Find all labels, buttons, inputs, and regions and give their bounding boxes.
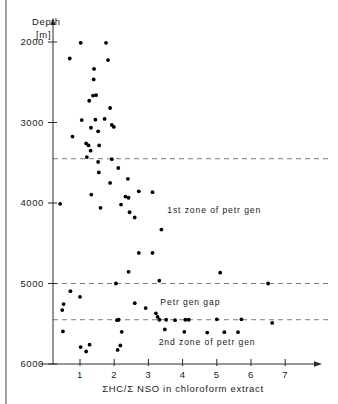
data-point xyxy=(151,251,155,255)
data-point xyxy=(126,177,130,181)
data-point xyxy=(187,318,191,322)
data-point xyxy=(154,311,158,315)
y-axis-title-line1: Depth xyxy=(32,16,61,27)
data-point xyxy=(116,166,120,170)
data-point xyxy=(87,99,91,103)
data-point xyxy=(137,251,141,255)
data-point xyxy=(266,282,270,286)
reference-lines-group xyxy=(53,159,332,320)
data-point xyxy=(270,321,274,325)
data-point xyxy=(160,228,164,232)
data-point xyxy=(103,117,107,121)
x-tick-label: 2 xyxy=(111,369,117,380)
plot-canvas: 20003000400050006000 1234567 1st zone of… xyxy=(0,0,338,404)
data-point xyxy=(108,106,112,110)
petr-gen-gap-label: Petr gen gap xyxy=(160,297,220,307)
data-point xyxy=(93,118,97,122)
data-point xyxy=(106,58,110,62)
data-point xyxy=(182,330,186,334)
data-point xyxy=(80,118,84,122)
data-point xyxy=(60,308,64,312)
data-point xyxy=(118,344,122,348)
data-point xyxy=(222,330,226,334)
y-axis-title-line2: [m] xyxy=(36,29,51,40)
data-point xyxy=(119,203,123,207)
second-zone-label: 2nd zone of petr gen xyxy=(159,337,256,347)
data-point xyxy=(61,330,65,334)
data-point xyxy=(183,318,187,322)
x-axis-arrowhead xyxy=(314,361,322,367)
data-point xyxy=(84,350,88,354)
first-zone-label: 1st zone of petr gen xyxy=(167,205,261,215)
data-point xyxy=(133,301,137,305)
data-point xyxy=(114,282,118,286)
data-point xyxy=(163,327,167,331)
data-point xyxy=(97,171,101,175)
data-point xyxy=(133,216,137,220)
data-point xyxy=(99,206,103,210)
x-tick-label: 6 xyxy=(248,369,254,380)
data-point xyxy=(92,67,96,71)
data-point xyxy=(96,129,100,133)
data-point xyxy=(173,318,177,322)
data-point xyxy=(58,202,62,206)
data-point xyxy=(117,318,121,322)
data-point xyxy=(68,57,72,61)
data-point xyxy=(144,306,148,310)
x-tick-label: 3 xyxy=(145,369,151,380)
data-point xyxy=(164,318,168,322)
y-tick-label: 3000 xyxy=(20,117,44,128)
data-point xyxy=(71,135,75,139)
data-point xyxy=(88,343,92,347)
data-point xyxy=(69,289,73,293)
data-point xyxy=(215,317,219,321)
data-point xyxy=(104,41,108,45)
data-point xyxy=(89,193,93,197)
data-point xyxy=(127,270,131,274)
data-point xyxy=(89,126,93,130)
axis-group xyxy=(40,18,322,367)
x-tick-label: 5 xyxy=(214,369,220,380)
data-point xyxy=(151,190,155,194)
data-point xyxy=(85,155,89,159)
data-point xyxy=(236,330,240,334)
data-point xyxy=(89,149,93,153)
data-point xyxy=(218,271,222,275)
y-tick-label: 5000 xyxy=(20,278,44,289)
y-tick-label: 6000 xyxy=(20,358,44,369)
data-point xyxy=(116,348,120,352)
data-point xyxy=(92,78,96,82)
data-point xyxy=(137,189,141,193)
scatter-plot-figure: 20003000400050006000 1234567 1st zone of… xyxy=(0,0,338,404)
data-point xyxy=(87,144,91,148)
data-point xyxy=(79,41,83,45)
data-point xyxy=(78,295,82,299)
data-point xyxy=(110,157,114,161)
x-axis-title: ΣHC/Σ NSO in chloroform extract xyxy=(102,383,264,394)
data-point xyxy=(205,331,209,335)
data-point xyxy=(157,318,161,322)
zone-annotations-group: 1st zone of petr genPetr gen gap2nd zone… xyxy=(159,205,262,346)
data-point xyxy=(79,345,83,349)
data-point xyxy=(62,302,66,306)
y-tick-label: 4000 xyxy=(20,197,44,208)
x-tick-group: 1234567 xyxy=(77,359,288,380)
data-point xyxy=(120,330,124,334)
data-point xyxy=(240,317,244,321)
data-point xyxy=(96,160,100,164)
data-point xyxy=(97,144,101,148)
data-point xyxy=(157,279,161,283)
x-tick-label: 7 xyxy=(282,369,288,380)
x-tick-label: 4 xyxy=(180,369,186,380)
data-point xyxy=(108,181,112,185)
x-tick-label: 1 xyxy=(77,369,83,380)
data-point xyxy=(94,93,98,97)
data-point xyxy=(128,210,132,214)
y-tick-group: 20003000400050006000 xyxy=(20,36,57,369)
data-point xyxy=(112,125,116,129)
data-point xyxy=(127,196,131,200)
